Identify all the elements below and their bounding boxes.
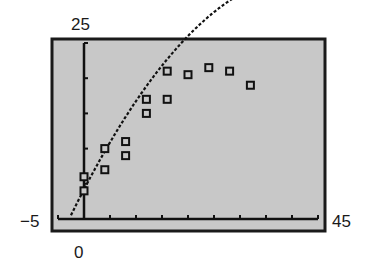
data-point — [205, 64, 212, 71]
calculator-graph — [0, 0, 370, 277]
data-point — [164, 68, 171, 75]
xmax-label: 45 — [332, 213, 351, 230]
screen-frame — [52, 39, 325, 231]
data-point — [101, 145, 108, 152]
data-point — [226, 68, 233, 75]
data-point — [81, 187, 88, 194]
data-point — [122, 138, 129, 145]
data-point — [81, 173, 88, 180]
data-point — [247, 82, 254, 89]
data-point — [143, 96, 150, 103]
data-point — [143, 110, 150, 117]
origin-label: 0 — [74, 244, 83, 261]
ymax-label: 25 — [71, 16, 90, 33]
data-point — [164, 96, 171, 103]
xmin-label: −5 — [20, 213, 39, 230]
data-point — [101, 166, 108, 173]
data-point — [122, 152, 129, 159]
data-point — [185, 71, 192, 78]
